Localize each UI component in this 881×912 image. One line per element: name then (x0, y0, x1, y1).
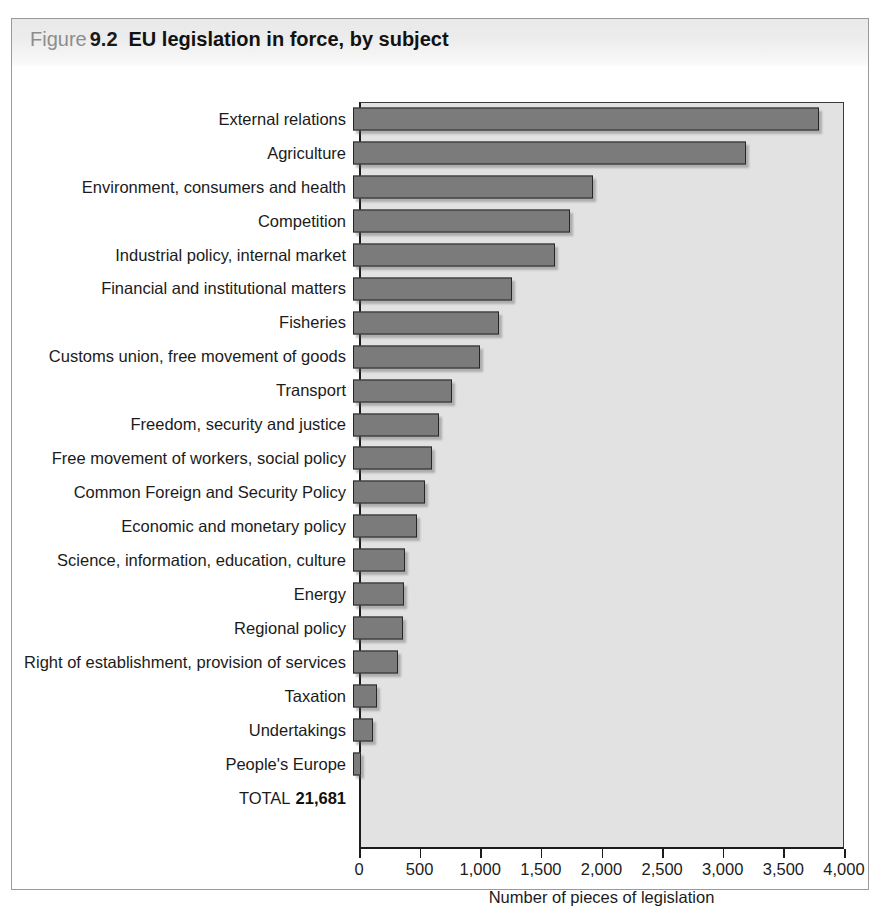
axis-tick-label: 1,000 (460, 860, 501, 879)
bar-row: Energy (12, 577, 868, 611)
bar-row: Fisheries (12, 306, 868, 340)
bar-row: Common Foreign and Security Policy (12, 475, 868, 509)
bar-category-label: Energy (12, 586, 353, 603)
bar-track (353, 713, 868, 747)
figure-caption: Figure9.2EU legislation in force, by sub… (30, 28, 449, 51)
bar (353, 515, 417, 538)
axis-tick (723, 849, 725, 858)
bar-row: Free movement of workers, social policy (12, 442, 868, 476)
bar-track (353, 543, 868, 577)
bar-category-label: Science, information, education, culture (12, 552, 353, 569)
axis-tick-label: 1,500 (520, 860, 561, 879)
bar-row: Economic and monetary policy (12, 509, 868, 543)
bar-track (353, 509, 868, 543)
bar-track (353, 408, 868, 442)
total-value: 21,681 (296, 789, 346, 807)
bar-category-label: Right of establishment, provision of ser… (12, 654, 353, 671)
bar (353, 685, 377, 708)
bar (353, 617, 403, 640)
bar (353, 141, 746, 164)
axis-tick (541, 849, 543, 858)
bar-category-label: Common Foreign and Security Policy (12, 484, 353, 501)
figure-header: Figure9.2EU legislation in force, by sub… (12, 19, 868, 67)
chart-area: External relationsAgricultureEnvironment… (12, 67, 868, 889)
axis-tick (480, 849, 482, 858)
axis-tick (602, 849, 604, 858)
bar (353, 345, 480, 368)
bar-track (353, 238, 868, 272)
axis-tick-label: 2,500 (641, 860, 682, 879)
bar-category-label: People's Europe (12, 756, 353, 773)
bar-category-label: Customs union, free movement of goods (12, 348, 353, 365)
bar (353, 549, 405, 572)
bar-row: People's Europe (12, 747, 868, 781)
bar-track (353, 136, 868, 170)
bar (353, 481, 425, 504)
bar-category-label: Competition (12, 213, 353, 230)
x-axis-title: Number of pieces of legislation (359, 888, 844, 907)
bar-category-label: Transport (12, 382, 353, 399)
bar (353, 447, 432, 470)
axis-tick-label: 0 (354, 860, 363, 879)
bar (353, 413, 439, 436)
bar-rows: External relationsAgricultureEnvironment… (12, 102, 868, 849)
bar-row: External relations (12, 102, 868, 136)
bar-track (353, 102, 868, 136)
total-label-group: TOTAL21,681 (12, 790, 353, 807)
page-title: EU legislation in force, by subject (129, 28, 449, 50)
bar (353, 243, 555, 266)
bar-category-label: Industrial policy, internal market (12, 247, 353, 264)
bar-track (353, 611, 868, 645)
bar (353, 175, 593, 198)
figure-word: Figure (30, 28, 87, 50)
bar (353, 719, 373, 742)
bar (353, 379, 452, 402)
axis-tick (844, 849, 846, 858)
bar-track (353, 679, 868, 713)
axis-tick (420, 849, 422, 858)
bar (353, 753, 361, 776)
bar-row: Financial and institutional matters (12, 272, 868, 306)
bar-track (353, 170, 868, 204)
bar-row: Taxation (12, 679, 868, 713)
bar-row: Agriculture (12, 136, 868, 170)
axis-tick (662, 849, 664, 858)
bar-row: Science, information, education, culture (12, 543, 868, 577)
bar-track (353, 272, 868, 306)
bar (353, 651, 398, 674)
axis-tick (359, 849, 361, 858)
figure-number: 9.2 (90, 28, 118, 50)
bar-category-label: Freedom, security and justice (12, 416, 353, 433)
axis-tick-label: 3,000 (702, 860, 743, 879)
bar-category-label: Regional policy (12, 620, 353, 637)
bar-category-label: Undertakings (12, 722, 353, 739)
bar-row: Competition (12, 204, 868, 238)
bar-category-label: Free movement of workers, social policy (12, 450, 353, 467)
bar-track (353, 340, 868, 374)
axis-tick (783, 849, 785, 858)
bar-track (353, 577, 868, 611)
bar-category-label: Fisheries (12, 314, 353, 331)
bar-track (353, 374, 868, 408)
bar-row: Transport (12, 374, 868, 408)
bar-category-label: External relations (12, 111, 353, 128)
bar-track (353, 645, 868, 679)
bar-category-label: Economic and monetary policy (12, 518, 353, 535)
bar (353, 209, 570, 232)
bar-track (353, 747, 868, 781)
bar (353, 583, 404, 606)
bar-category-label: Taxation (12, 688, 353, 705)
axis-tick-label: 3,500 (763, 860, 804, 879)
bar-row: Environment, consumers and health (12, 170, 868, 204)
total-row: TOTAL21,681 (12, 781, 868, 815)
bar-track (353, 442, 868, 476)
bar-category-label: Financial and institutional matters (12, 280, 353, 297)
bar-category-label: Environment, consumers and health (12, 179, 353, 196)
bar-row: Freedom, security and justice (12, 408, 868, 442)
bar-row: Regional policy (12, 611, 868, 645)
figure-frame: Figure9.2EU legislation in force, by sub… (11, 18, 869, 890)
bar (353, 311, 499, 334)
axis-tick-label: 500 (406, 860, 434, 879)
bar (353, 107, 819, 130)
bar-category-label: Agriculture (12, 145, 353, 162)
